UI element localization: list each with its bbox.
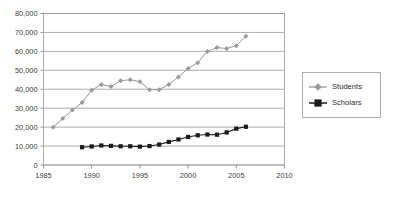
y-axis-tick-label: 50,000 bbox=[15, 66, 38, 75]
series-line bbox=[82, 127, 246, 147]
square-marker-icon bbox=[314, 99, 321, 106]
data-point-marker bbox=[234, 127, 238, 131]
data-point-marker bbox=[108, 84, 113, 89]
y-axis-tick-label: 80,000 bbox=[15, 9, 38, 18]
data-point-marker bbox=[138, 145, 142, 149]
data-point-marker bbox=[196, 133, 200, 137]
legend-entry-scholars: Scholars bbox=[309, 98, 362, 107]
data-point-marker bbox=[167, 140, 171, 144]
legend-box bbox=[303, 73, 381, 118]
data-point-marker bbox=[244, 125, 248, 129]
data-point-marker bbox=[118, 78, 123, 83]
y-axis-tick-label: 20,000 bbox=[15, 123, 38, 132]
data-point-marker bbox=[215, 133, 219, 137]
x-axis-tick-label: 2000 bbox=[180, 171, 196, 180]
x-axis-tick-label: 2010 bbox=[276, 171, 292, 180]
x-axis-tick-label: 1990 bbox=[83, 171, 99, 180]
data-point-marker bbox=[186, 135, 190, 139]
x-axis-tick-label: 1985 bbox=[35, 171, 51, 180]
data-point-marker bbox=[215, 45, 220, 50]
data-point-marker bbox=[128, 144, 132, 148]
data-point-marker bbox=[225, 130, 229, 134]
series-scholars bbox=[80, 125, 248, 150]
line-chart: 010,00020,00030,00040,00050,00060,00070,… bbox=[0, 0, 394, 199]
data-point-marker bbox=[99, 82, 104, 87]
data-point-marker bbox=[157, 142, 161, 146]
y-axis-tick-label: 0 bbox=[33, 161, 37, 170]
y-axis-tick-label: 10,000 bbox=[15, 142, 38, 151]
data-point-marker bbox=[147, 144, 151, 148]
x-axis-tick-label: 1995 bbox=[132, 171, 148, 180]
data-point-marker bbox=[119, 144, 123, 148]
legend-label-scholars: Scholars bbox=[332, 98, 362, 107]
data-point-marker bbox=[224, 46, 229, 51]
data-point-marker bbox=[99, 143, 103, 147]
data-point-marker bbox=[157, 87, 162, 92]
legend-label-students: Students bbox=[332, 82, 362, 91]
y-axis-labels: 010,00020,00030,00040,00050,00060,00070,… bbox=[15, 9, 38, 170]
data-point-marker bbox=[80, 145, 84, 149]
data-point-marker bbox=[205, 132, 209, 136]
y-axis-tick-label: 70,000 bbox=[15, 28, 38, 37]
data-point-marker bbox=[176, 137, 180, 141]
x-axis-labels: 198519901995200020052010 bbox=[35, 171, 292, 180]
x-axis-tick-label: 2005 bbox=[228, 171, 244, 180]
data-point-marker bbox=[109, 144, 113, 148]
series-students bbox=[51, 34, 249, 130]
chart-container: 010,00020,00030,00040,00050,00060,00070,… bbox=[0, 0, 394, 199]
y-axis-tick-label: 30,000 bbox=[15, 104, 38, 113]
data-point-marker bbox=[90, 144, 94, 148]
data-point-marker bbox=[128, 77, 133, 82]
y-axis-tick-label: 40,000 bbox=[15, 85, 38, 94]
y-axis-tick-label: 60,000 bbox=[15, 47, 38, 56]
legend: Students Scholars bbox=[303, 73, 381, 118]
